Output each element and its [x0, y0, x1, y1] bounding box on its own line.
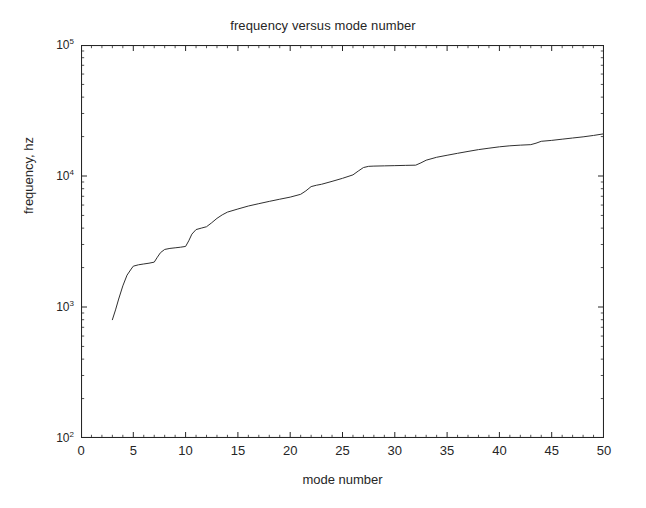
- axis-box: [82, 46, 604, 438]
- x-axis-title: mode number: [81, 472, 604, 487]
- x-tick-label: 40: [492, 443, 506, 458]
- x-tick-label: 30: [388, 443, 402, 458]
- y-tick-label: 103: [28, 300, 74, 314]
- figure-canvas: frequency versus mode number frequency, …: [0, 0, 646, 508]
- x-tick-label: 25: [335, 443, 349, 458]
- x-tick-label: 35: [440, 443, 454, 458]
- x-tick-label: 0: [77, 443, 84, 458]
- x-tick-label: 10: [178, 443, 192, 458]
- x-tick-label: 20: [283, 443, 297, 458]
- x-tick-label: 15: [231, 443, 245, 458]
- series-line-0: [112, 134, 604, 320]
- plot-svg: [81, 45, 604, 438]
- axis-ticks: [81, 45, 604, 438]
- x-tick-label: 45: [544, 443, 558, 458]
- x-tick-label: 50: [597, 443, 611, 458]
- y-tick-label: 102: [28, 431, 74, 445]
- data-series-group: [112, 134, 604, 320]
- y-tick-label: 105: [28, 38, 74, 52]
- plot-area: [81, 45, 604, 438]
- y-tick-label: 104: [28, 169, 74, 183]
- x-tick-label: 5: [130, 443, 137, 458]
- chart-title: frequency versus mode number: [0, 18, 646, 33]
